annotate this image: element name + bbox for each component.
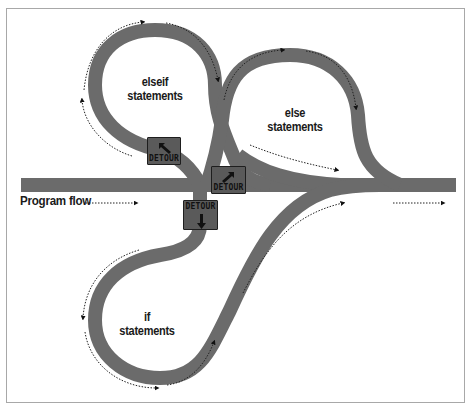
detour-sign-text: DETOUR <box>148 154 180 163</box>
if-loop-road <box>95 185 380 378</box>
detour-sign-elseif: DETOUR <box>147 137 181 165</box>
detour-sign-else: DETOUR <box>211 166 246 194</box>
detour-sign-if: DETOUR <box>183 200 218 230</box>
if-statements-label: if statements <box>114 310 179 338</box>
detour-sign-text: DETOUR <box>212 183 245 192</box>
program-flow-label: Program flow <box>20 193 91 208</box>
detour-sign-text: DETOUR <box>184 202 217 211</box>
elseif-statements-label: elseif statements <box>122 75 187 103</box>
else-statements-label: else statements <box>262 106 327 134</box>
arrow-down-icon <box>184 212 219 230</box>
